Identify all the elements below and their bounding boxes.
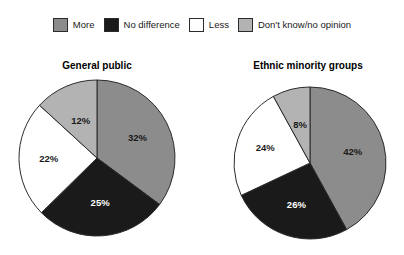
pie-slice-label-1-2: 24%	[256, 144, 275, 154]
legend-item-2[interactable]: Less	[189, 18, 229, 32]
pie-slice-label-0-1: 25%	[91, 198, 110, 208]
legend-label-0: More	[73, 20, 95, 30]
pie-chart-general-public: 32%25%22%12%	[17, 78, 177, 238]
pie-chart-ethnic-minority-groups: 42%26%24%8%	[232, 85, 388, 241]
chart-legend: MoreNo differenceLessDon't know/no opini…	[0, 18, 404, 32]
legend-item-0[interactable]: More	[53, 18, 95, 32]
pie-panel-general-public: General public 32%25%22%12%	[17, 60, 177, 240]
pie-slice-label-1-0: 42%	[343, 147, 362, 157]
pie-slice-label-1-1: 26%	[287, 200, 306, 210]
pie-slice-label-0-3: 12%	[71, 116, 90, 126]
legend-swatch-less	[189, 18, 204, 32]
legend-label-1: No difference	[124, 20, 180, 30]
legend-label-2: Less	[209, 20, 229, 30]
pie-slice-label-0-0: 32%	[128, 133, 147, 143]
legend-item-1[interactable]: No difference	[104, 18, 180, 32]
pie-title-general-public: General public	[17, 60, 177, 71]
legend-label-3: Don't know/no opinion	[258, 20, 351, 30]
legend-swatch-dont-know	[238, 18, 253, 32]
legend-item-3[interactable]: Don't know/no opinion	[238, 18, 351, 32]
pie-panel-ethnic-minority-groups: Ethnic minority groups 42%26%24%8%	[232, 60, 384, 240]
pie-title-ethnic-minority-groups: Ethnic minority groups	[232, 60, 384, 71]
pie-slice-label-0-2: 22%	[39, 154, 58, 164]
pie-svg-1	[232, 85, 388, 241]
pie-slice-label-1-3: 8%	[293, 120, 307, 130]
legend-swatch-more	[53, 18, 68, 32]
legend-swatch-no-difference	[104, 18, 119, 32]
